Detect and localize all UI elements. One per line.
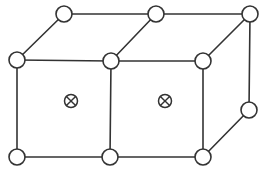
- lattice-node-front-bottom-middle: [102, 149, 118, 165]
- cross-circle-icon-face-center-left: [65, 95, 78, 108]
- lattice-node-front-bottom-right: [195, 149, 211, 165]
- edges-group: [17, 14, 250, 157]
- edge-front-top-right-to-back-top-right: [203, 14, 250, 61]
- lattice-node-back-top-middle: [148, 6, 164, 22]
- lattice-node-back-top-right: [242, 6, 258, 22]
- lattice-node-back-top-left: [56, 6, 72, 22]
- edge-front-top-left-to-front-top-middle: [17, 60, 111, 61]
- lattice-diagram: [0, 0, 263, 178]
- lattice-node-front-top-right: [195, 53, 211, 69]
- edge-back-top-right-to-back-bottom-right: [249, 14, 250, 110]
- edge-front-bottom-right-to-back-bottom-right: [203, 110, 249, 157]
- edge-front-top-middle-to-back-top-middle: [111, 14, 156, 61]
- markers-group: [65, 95, 172, 108]
- nodes-group: [9, 6, 258, 165]
- edge-front-top-left-to-back-top-left: [17, 14, 64, 60]
- lattice-node-front-bottom-left: [9, 149, 25, 165]
- lattice-node-front-top-left: [9, 52, 25, 68]
- edge-front-top-middle-to-front-bottom-middle: [110, 61, 111, 157]
- cross-circle-icon-face-center-right: [159, 95, 172, 108]
- lattice-node-back-bottom-right: [241, 102, 257, 118]
- lattice-node-front-top-middle: [103, 53, 119, 69]
